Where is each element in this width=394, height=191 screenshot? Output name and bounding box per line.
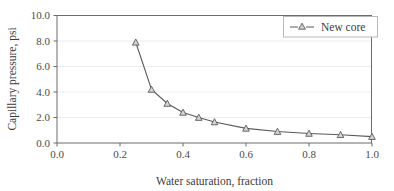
chart-legend[interactable]: New core [284,17,378,38]
x-tick-label: 1.0 [365,148,379,160]
y-axis-title: Capillary pressure, psi [6,27,19,130]
x-tick-label: 0.2 [113,148,127,160]
capillary-pressure-chart: 0.02.04.06.08.010.0 0.00.20.40.60.81.0 W… [0,0,394,191]
y-tick-label: 2.0 [36,111,50,123]
y-tick-label: 4.0 [36,86,50,98]
x-tick-label: 0.4 [176,148,190,160]
chart-canvas: 0.02.04.06.08.010.0 0.00.20.40.60.81.0 W… [0,0,394,191]
y-tick-label: 8.0 [36,35,50,47]
y-tick-label: 0.0 [36,137,50,149]
y-tick-label: 6.0 [36,60,50,72]
x-tick-label: 0.0 [50,148,64,160]
x-tick-label: 0.6 [239,148,253,160]
x-tick-label: 0.8 [302,148,316,160]
y-tick-label: 10.0 [31,9,51,21]
legend-entry-label: New core [321,21,365,33]
x-axis-title: Water saturation, fraction [156,175,273,188]
